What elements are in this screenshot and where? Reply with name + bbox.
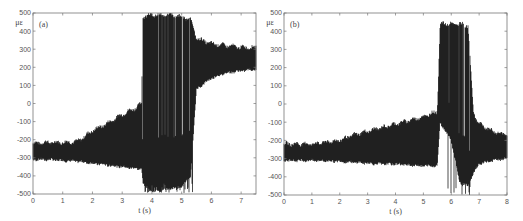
x-tick-label: 3 [120,197,124,204]
y-tick-label: -100 [17,118,31,125]
x-tick-label: 2 [338,198,342,205]
y-axis-label: με [15,18,23,27]
y-tick-label: -400 [17,172,31,179]
x-tick-label: 6 [449,198,453,205]
x-tick-label: 5 [421,198,425,205]
y-axis: -500-400-300-200-1000100200300400500 [17,9,256,197]
y-tick-label: 400 [19,28,31,35]
signal-trace [284,21,507,195]
x-tick-label: 2 [91,197,95,204]
x-tick-label: 1 [61,197,65,204]
x-tick-label: 4 [150,197,154,204]
y-tick-label: -500 [268,191,282,198]
x-tick-label: 4 [394,198,398,205]
y-axis-label: με [266,18,274,27]
x-tick-label: 7 [477,198,481,205]
y-tick-label: 0 [27,100,31,107]
y-tick-label: 200 [19,64,31,71]
y-tick-label: 500 [19,9,31,16]
y-tick-label: 300 [19,46,31,53]
x-axis: 012345678 [282,13,509,205]
x-tick-label: 0 [282,198,286,205]
chart-panel-a: -500-400-300-200-10001002003004005000123… [15,9,256,215]
y-tick-label: 200 [270,64,282,71]
signal-trace [33,13,256,193]
x-tick-label: 0 [31,197,35,204]
x-axis-label: t (s) [138,206,151,215]
x-tick-label: 6 [209,197,213,204]
y-tick-label: -300 [268,155,282,162]
y-tick-label: -200 [268,137,282,144]
x-axis-label: t (s) [389,207,402,216]
panel-label: (a) [39,20,48,29]
y-tick-label: 100 [19,82,31,89]
y-tick-label: 500 [270,9,282,16]
strain-time-plots: -500-400-300-200-10001002003004005000123… [0,0,523,221]
chart-panel-b: -500-400-300-200-10001002003004005000123… [266,9,509,216]
panel-label: (b) [290,20,300,29]
figure: -500-400-300-200-10001002003004005000123… [0,0,523,221]
y-tick-label: 0 [278,100,282,107]
y-tick-label: -200 [17,136,31,143]
x-tick-label: 3 [366,198,370,205]
x-tick-label: 7 [239,197,243,204]
y-tick-label: -400 [268,173,282,180]
x-tick-label: 5 [180,197,184,204]
y-tick-label: -300 [17,154,31,161]
y-tick-label: -500 [17,190,31,197]
y-tick-label: 300 [270,46,282,53]
x-tick-label: 1 [310,198,314,205]
y-tick-label: -100 [268,119,282,126]
y-tick-label: 400 [270,28,282,35]
y-tick-label: 100 [270,82,282,89]
x-tick-label: 8 [505,198,509,205]
